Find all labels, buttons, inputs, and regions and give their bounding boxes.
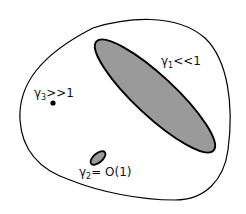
region-gamma3-point	[50, 100, 55, 105]
diagram-canvas: γ1<<1 γ3>>1 γ2= O(1)	[0, 0, 246, 214]
region-gamma1-ellipse	[83, 27, 227, 165]
label-gamma2: γ2= O(1)	[79, 165, 132, 181]
label-gamma3: γ3>>1	[34, 86, 74, 102]
label-gamma1: γ1<<1	[161, 54, 201, 70]
